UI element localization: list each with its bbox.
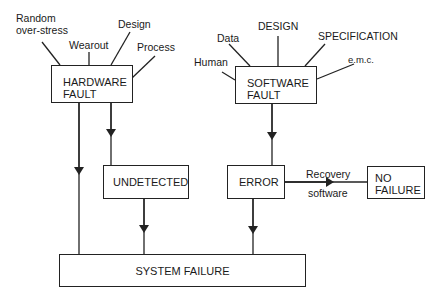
cause-emc-label: e.m.c. — [348, 54, 374, 65]
software-label: software — [308, 188, 348, 199]
undetected-label: UNDETECTED — [113, 176, 188, 188]
cause-process-label: Process — [137, 42, 175, 53]
recovery-label: Recovery — [306, 169, 350, 180]
cause-design-label: Design — [118, 19, 151, 30]
cause-data-label: Data — [217, 33, 239, 44]
hardware-fault-box: HARDWARE FAULT — [51, 65, 133, 103]
no-failure-box: NO FAILURE — [367, 166, 425, 199]
undetected-box: UNDETECTED — [103, 165, 189, 199]
cause-specification-label: SPECIFICATION — [318, 31, 398, 42]
no-failure-line2: FAILURE — [375, 184, 424, 196]
no-failure-line1: NO — [375, 172, 424, 184]
error-label: ERROR — [239, 176, 284, 188]
software-fault-line2: FAULT — [247, 89, 316, 101]
system-failure-box: SYSTEM FAILURE — [59, 254, 306, 287]
cause-design-software-label: DESIGN — [258, 21, 298, 32]
hardware-fault-line2: FAULT — [63, 88, 132, 100]
error-box: ERROR — [227, 165, 285, 199]
hardware-fault-line1: HARDWARE — [63, 76, 132, 88]
cause-over-stress-label: over-stress — [16, 25, 68, 36]
connector-lines — [0, 0, 446, 296]
cause-wearout-label: Wearout — [69, 40, 109, 51]
system-failure-label: SYSTEM FAILURE — [135, 265, 229, 277]
cause-human-label: Human — [194, 57, 228, 68]
software-fault-line1: SOFTWARE — [247, 77, 316, 89]
software-fault-box: SOFTWARE FAULT — [235, 66, 317, 104]
cause-random-label: Random — [16, 13, 56, 24]
